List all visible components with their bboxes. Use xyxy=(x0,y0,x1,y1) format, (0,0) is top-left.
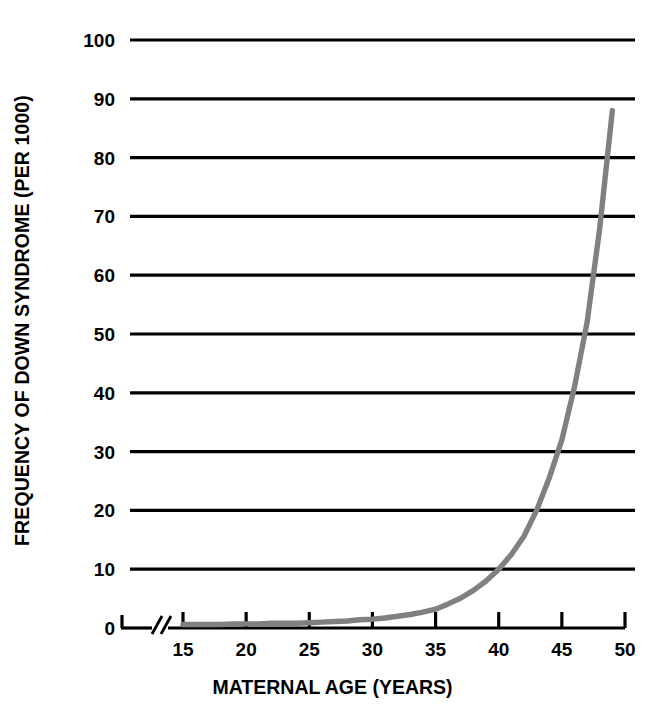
x-tick-label: 40 xyxy=(488,639,509,660)
y-tick-label: 30 xyxy=(94,442,115,463)
y-tick-label: 70 xyxy=(94,206,115,227)
y-tick-label: 50 xyxy=(94,324,115,345)
y-tick-labels-group: 0102030405060708090100 xyxy=(83,30,115,639)
x-tick-label: 35 xyxy=(425,639,447,660)
y-tick-label: 0 xyxy=(104,618,115,639)
data-line-group xyxy=(183,111,612,625)
x-axis-title-text: MATERNAL AGE (YEARS) xyxy=(212,676,452,698)
axis-break-slash-1 xyxy=(152,616,162,634)
gridlines-group xyxy=(130,40,635,569)
x-tick-labels-group: 1520253035404550 xyxy=(172,639,635,660)
axis-break-icon xyxy=(152,616,171,634)
y-tick-label: 40 xyxy=(94,383,115,404)
y-tick-label: 90 xyxy=(94,89,115,110)
y-tick-label: 10 xyxy=(94,559,115,580)
x-tick-label: 50 xyxy=(614,639,635,660)
x-axis-title: MATERNAL AGE (YEARS) xyxy=(0,676,665,699)
axis-break-slash-2 xyxy=(161,616,171,634)
plot-area: 0102030405060708090100 1520253035404550 xyxy=(0,0,665,720)
y-tick-label: 20 xyxy=(94,500,115,521)
y-tick-label: 100 xyxy=(83,30,115,51)
x-tick-label: 20 xyxy=(236,639,257,660)
x-tick-label: 25 xyxy=(299,639,321,660)
chart-container: FREQUENCY OF DOWN SYNDROME (PER 1000) 01… xyxy=(0,0,665,720)
y-tick-label: 80 xyxy=(94,148,115,169)
y-tick-label: 60 xyxy=(94,265,115,286)
data-line xyxy=(183,111,612,625)
x-tick-label: 45 xyxy=(551,639,573,660)
x-tick-label: 15 xyxy=(172,639,194,660)
x-tick-label: 30 xyxy=(362,639,383,660)
